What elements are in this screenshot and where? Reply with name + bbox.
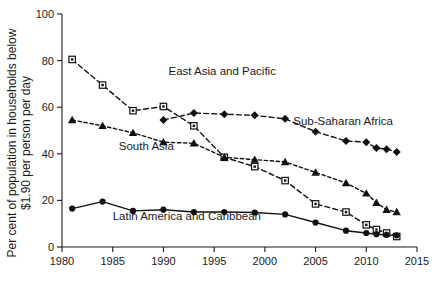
marker-filled-circle bbox=[343, 228, 349, 234]
marker-open-square-center bbox=[375, 228, 377, 230]
marker-filled-triangle bbox=[342, 179, 350, 186]
marker-open-square-center bbox=[101, 84, 103, 86]
marker-filled-circle bbox=[99, 198, 105, 204]
series-line-south-asia bbox=[72, 120, 397, 212]
x-tick-label: 1985 bbox=[100, 255, 124, 267]
marker-open-square-center bbox=[132, 109, 134, 111]
marker-filled-diamond bbox=[383, 145, 391, 153]
chart-container: Per cent of population in households bel… bbox=[0, 0, 432, 290]
marker-filled-circle bbox=[383, 232, 389, 238]
marker-filled-circle bbox=[69, 205, 75, 211]
x-ticks-group: 19801985199019952000200520102015 bbox=[50, 247, 429, 267]
marker-open-square-center bbox=[162, 105, 164, 107]
marker-filled-diamond bbox=[159, 116, 167, 124]
marker-filled-circle bbox=[282, 211, 288, 217]
marker-filled-diamond bbox=[342, 137, 350, 145]
x-tick-label: 2015 bbox=[405, 255, 429, 267]
y-tick-label: 0 bbox=[48, 241, 54, 253]
marker-filled-triangle bbox=[129, 129, 137, 136]
y-tick-label: 60 bbox=[42, 101, 54, 113]
series-label-sub-saharan-africa: Sub-Saharan Africa bbox=[293, 115, 393, 127]
x-tick-label: 1990 bbox=[151, 255, 175, 267]
marker-filled-diamond bbox=[251, 111, 259, 119]
marker-filled-diamond bbox=[393, 148, 401, 156]
marker-open-square-center bbox=[345, 211, 347, 213]
marker-filled-diamond bbox=[281, 115, 289, 123]
marker-open-square-center bbox=[365, 224, 367, 226]
y-axis-title-group: Per cent of population in households bel… bbox=[5, 28, 33, 257]
marker-filled-circle bbox=[373, 231, 379, 237]
x-tick-label: 1980 bbox=[50, 255, 74, 267]
marker-filled-circle bbox=[312, 219, 318, 225]
marker-filled-diamond bbox=[312, 128, 320, 136]
y-axis-title-line-1: Per cent of population in households bel… bbox=[5, 28, 19, 257]
x-tick-label: 2000 bbox=[253, 255, 277, 267]
marker-filled-diamond bbox=[190, 109, 198, 117]
series-label-east-asia-and-pacific: East Asia and Pacific bbox=[169, 65, 277, 77]
marker-filled-triangle bbox=[362, 189, 370, 196]
marker-filled-diamond bbox=[220, 110, 228, 118]
x-tick-label: 2010 bbox=[354, 255, 378, 267]
marker-filled-diamond bbox=[372, 144, 380, 152]
marker-filled-triangle bbox=[382, 206, 390, 213]
y-axis-title-line-2: $1.90 per person per day bbox=[19, 76, 33, 210]
marker-open-square-center bbox=[314, 203, 316, 205]
marker-open-square-center bbox=[254, 165, 256, 167]
series-label-south-asia: South Asia bbox=[119, 140, 175, 152]
x-tick-label: 2005 bbox=[303, 255, 327, 267]
x-tick-label: 1995 bbox=[202, 255, 226, 267]
y-tick-label: 40 bbox=[42, 148, 54, 160]
marker-filled-triangle bbox=[68, 116, 76, 123]
marker-open-square-center bbox=[284, 179, 286, 181]
series-label-latin-america-and-caribbean: Latin America and Caribbean bbox=[113, 210, 261, 222]
series-labels-group: East Asia and PacificSub-Saharan AfricaS… bbox=[113, 65, 394, 223]
marker-open-square-center bbox=[71, 58, 73, 60]
marker-open-square-center bbox=[193, 125, 195, 127]
y-tick-label: 20 bbox=[42, 194, 54, 206]
y-ticks-group: 020406080100 bbox=[36, 8, 62, 253]
marker-filled-circle bbox=[394, 232, 400, 238]
marker-filled-circle bbox=[363, 230, 369, 236]
y-tick-label: 80 bbox=[42, 55, 54, 67]
y-tick-label: 100 bbox=[36, 8, 54, 20]
poverty-line-chart: Per cent of population in households bel… bbox=[0, 0, 432, 290]
marker-filled-diamond bbox=[362, 138, 370, 146]
